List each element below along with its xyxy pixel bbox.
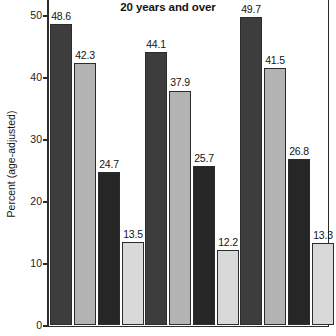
y-axis-tick-mark — [43, 263, 47, 264]
bar — [74, 63, 96, 325]
bar — [122, 242, 144, 326]
y-axis-tick-mark — [43, 325, 47, 326]
bar — [312, 243, 334, 325]
bar-value-label: 37.9 — [170, 76, 190, 88]
bar-value-label: 26.8 — [289, 145, 309, 157]
bar-value-label: 24.7 — [99, 158, 119, 170]
y-axis-line — [47, 0, 49, 327]
y-axis-tick-label: 50 — [30, 9, 42, 21]
x-axis-line — [47, 326, 329, 328]
bar-value-label: 49.7 — [241, 3, 261, 15]
bar — [217, 250, 239, 326]
y-axis-tick-mark — [43, 15, 47, 16]
bar — [240, 17, 262, 325]
bar-value-label: 13.5 — [123, 228, 143, 240]
bar — [50, 24, 72, 325]
y-axis-tick-mark — [43, 77, 47, 78]
bar — [288, 159, 310, 325]
y-axis-tick-label: 0 — [36, 319, 42, 331]
bar-value-label: 13.3 — [313, 229, 333, 241]
bar — [98, 172, 120, 325]
bar — [193, 166, 215, 325]
y-axis-tick-label: 40 — [30, 71, 42, 83]
bar-value-label: 42.3 — [75, 49, 95, 61]
y-axis-tick-mark — [43, 139, 47, 140]
bar-value-label: 25.7 — [194, 152, 214, 164]
plot-area: 01020304050 Percent (age-adjusted) 48.64… — [47, 0, 329, 327]
bar-value-label: 48.6 — [51, 10, 71, 22]
y-axis-tick-label: 10 — [30, 257, 42, 269]
bar-value-label: 12.2 — [218, 236, 238, 248]
y-axis-tick-label: 20 — [30, 195, 42, 207]
bar-value-label: 41.5 — [265, 54, 285, 66]
bar-chart: 20 years and over 01020304050 Percent (a… — [0, 0, 336, 336]
bar — [169, 91, 191, 326]
bar — [145, 52, 167, 325]
y-axis-tick-label: 30 — [30, 133, 42, 145]
bar — [264, 68, 286, 325]
y-axis-title: Percent (age-adjusted) — [5, 110, 17, 217]
y-axis-tick-mark — [43, 201, 47, 202]
bar-value-label: 44.1 — [146, 38, 166, 50]
